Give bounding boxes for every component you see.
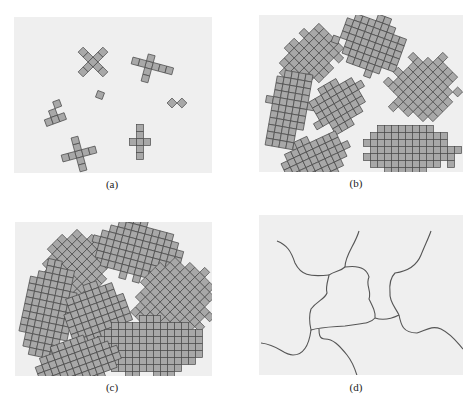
caption-a: (a): [92, 178, 132, 190]
grain-boundary-lines: [261, 231, 463, 375]
nuclei-drawing: [14, 17, 212, 173]
nucleus: [130, 125, 151, 160]
growing-grain: [364, 126, 462, 173]
nucleus: [40, 100, 67, 127]
nucleus: [68, 37, 117, 86]
panel-d-grain-boundaries: [259, 215, 463, 375]
panel-c-solidified: [15, 222, 212, 376]
nucleus: [58, 133, 101, 173]
growing-grain: [259, 68, 320, 152]
panel-a-nuclei: [14, 17, 212, 173]
nucleus: [96, 91, 105, 100]
solidified-grains-drawing: [15, 222, 212, 376]
grain-boundary-drawing: [259, 215, 463, 375]
caption-c: (c): [92, 381, 132, 393]
growing-grains-drawing: [259, 15, 463, 172]
nucleus: [128, 50, 176, 88]
caption-b: (b): [336, 177, 376, 189]
panel-b-growth: [259, 15, 463, 172]
caption-d: (d): [336, 381, 376, 393]
nucleus: [167, 93, 187, 113]
